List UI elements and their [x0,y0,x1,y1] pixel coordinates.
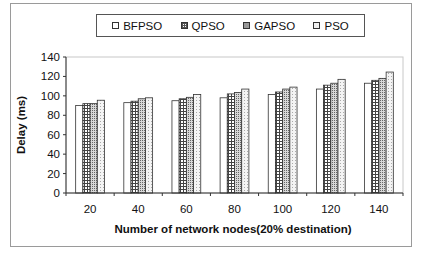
bar-qpso-60 [179,99,186,193]
legend-label: QPSO [192,20,225,32]
bar-gapso-20 [90,104,97,193]
x-axis: 20406080100120140 [66,193,403,215]
legend-swatch-light-dots-icon [313,22,320,29]
y-tick-label: 80 [47,109,60,121]
legend-item-gapso: GAPSO [243,20,295,32]
legend-label: PSO [324,20,348,32]
bar-pso-100 [290,87,297,193]
legend-swatch-dense-grid-icon [243,22,250,29]
y-tick-label: 20 [47,168,60,180]
bar-gapso-60 [186,97,193,193]
bar-gapso-140 [379,78,386,193]
bar-bfpso-20 [76,106,83,193]
y-tick-label: 120 [41,70,60,82]
bar-pso-120 [338,79,345,193]
x-tick-label: 80 [228,203,241,215]
x-tick-label: 140 [369,203,388,215]
bar-gapso-80 [235,92,242,193]
legend-swatch-white-icon [112,22,119,29]
x-tick-label: 40 [132,203,145,215]
y-tick-label: 40 [47,148,60,160]
y-axis: 020406080100120140 [41,51,66,199]
bar-qpso-140 [372,80,379,193]
x-tick-label: 20 [84,203,97,215]
bar-gapso-120 [331,83,338,193]
bar-bfpso-60 [172,101,179,193]
legend-label: GAPSO [254,20,295,32]
bar-gapso-40 [138,99,145,193]
bar-pso-80 [242,89,249,193]
bar-qpso-40 [131,101,138,193]
bar-pso-60 [194,94,201,193]
bar-bfpso-140 [365,83,372,193]
legend-item-bfpso: BFPSO [112,20,162,32]
bar-bfpso-80 [220,98,227,193]
bar-pso-20 [97,100,104,193]
x-axis-title: Number of network nodes(20% destination) [114,223,351,235]
bar-pso-140 [386,72,393,193]
chart-legend: BFPSO QPSO GAPSO PSO [96,14,365,37]
legend-swatch-dotted-grid-icon [181,22,188,29]
bar-qpso-100 [275,92,282,193]
legend-label: BFPSO [123,20,162,32]
x-tick-label: 60 [180,203,193,215]
bar-qpso-20 [83,104,90,193]
x-tick-label: 120 [321,203,340,215]
legend-item-qpso: QPSO [181,20,225,32]
bar-bfpso-120 [316,89,323,193]
legend-item-pso: PSO [313,20,348,32]
bar-bfpso-40 [124,103,131,193]
y-tick-label: 100 [41,90,60,102]
bar-gapso-100 [283,89,290,193]
bar-qpso-80 [227,94,234,193]
y-axis-title: Delay (ms) [15,96,27,154]
y-tick-label: 140 [41,51,60,63]
bar-chart: 020406080100120140 20406080100120140 Del… [0,0,422,258]
bar-qpso-120 [324,85,331,193]
y-tick-label: 0 [54,187,60,199]
x-tick-label: 100 [273,203,292,215]
bar-bfpso-100 [268,94,275,193]
bar-pso-40 [145,98,152,193]
y-tick-label: 60 [47,129,60,141]
